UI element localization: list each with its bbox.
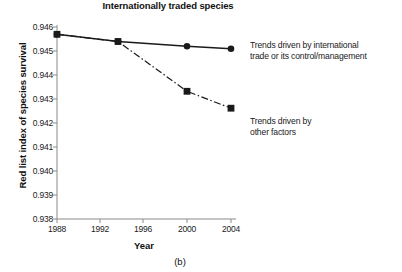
legend-line-1: Trends driven by [250, 116, 350, 127]
legend-item-international-trade: Trends driven by international trade or … [250, 40, 402, 61]
legend-line-1: Trends driven by international [250, 40, 402, 51]
figure-panel: Internationally traded species Red list … [0, 0, 402, 272]
legend-line-2: trade or its control/management [250, 51, 402, 62]
series-other-factors-line [57, 34, 231, 108]
legend-item-other-factors: Trends driven by other factors [250, 116, 350, 137]
x-axis-ticks [57, 219, 231, 223]
y-axis-ticks [53, 27, 57, 219]
series-international-trade-line [57, 34, 231, 48]
figure-caption: (b) [150, 256, 210, 267]
series-international-trade-markers [54, 31, 235, 52]
x-axis-label: Year [57, 240, 231, 251]
legend-line-2: other factors [250, 127, 350, 138]
